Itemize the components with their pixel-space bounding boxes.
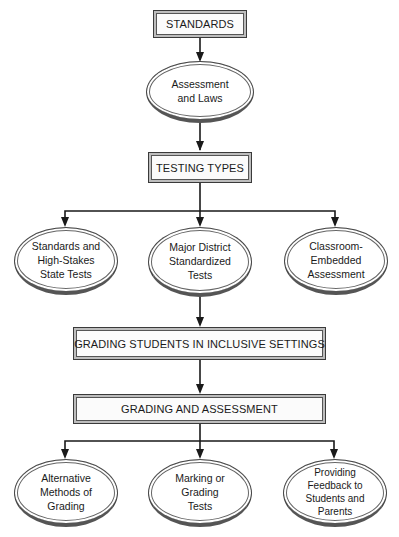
node-label-line: Assessment (307, 267, 364, 281)
node-label-line: Standards and (32, 239, 100, 253)
node-state-tests: Standards and High-Stakes State Tests (14, 227, 118, 295)
node-grading-inclusive: GRADING STUDENTS IN INCLUSIVE SETTINGS (73, 327, 326, 360)
node-label-line: Tests (175, 499, 225, 513)
node-providing-feedback: Providing Feedback to Students and Paren… (283, 459, 387, 527)
node-label: STANDARDS (166, 18, 234, 30)
node-label-line: Parents (306, 505, 365, 518)
node-alternative-methods: Alternative Methods of Grading (14, 459, 118, 527)
node-assessment-and-laws: Assessment and Laws (146, 61, 254, 123)
node-label-line: Feedback to (306, 479, 365, 492)
node-label: GRADING AND ASSESSMENT (121, 403, 278, 415)
node-label-line: Alternative (40, 471, 92, 485)
node-label-line: Standardized (169, 254, 231, 268)
node-label-line: Assessment (171, 77, 228, 91)
node-label-line: Major District (169, 240, 231, 254)
node-label-line: High-Stakes (32, 253, 100, 267)
node-label-line: Marking or (175, 471, 225, 485)
node-classroom-assessment: Classroom- Embedded Assessment (284, 227, 388, 295)
node-district-tests: Major District Standardized Tests (148, 227, 252, 297)
node-label-line: Providing (306, 466, 365, 479)
node-label-line: and Laws (171, 91, 228, 105)
node-standards: STANDARDS (153, 10, 247, 38)
node-label-line: Classroom- (307, 239, 364, 253)
node-label: GRADING STUDENTS IN INCLUSIVE SETTINGS (74, 338, 325, 350)
node-testing-types: TESTING TYPES (148, 152, 252, 183)
node-label-line: Tests (169, 268, 231, 282)
node-label: TESTING TYPES (156, 162, 244, 174)
node-label-line: State Tests (32, 267, 100, 281)
node-label-line: Embedded (307, 253, 364, 267)
node-label-line: Methods of (40, 485, 92, 499)
node-marking-tests: Marking or Grading Tests (148, 459, 252, 527)
node-label-line: Grading (40, 499, 92, 513)
node-label-line: Grading (175, 485, 225, 499)
node-label-line: Students and (306, 492, 365, 505)
node-grading-assessment: GRADING AND ASSESSMENT (73, 394, 326, 424)
